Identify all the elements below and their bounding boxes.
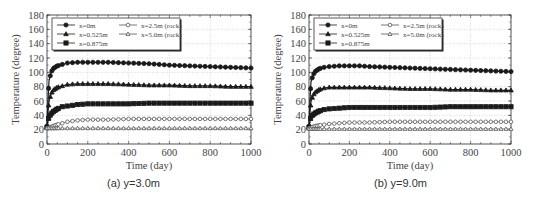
y-tick-label: 40 <box>34 110 45 121</box>
y-tick-label: 140 <box>28 38 44 49</box>
y-tick-label: 140 <box>290 38 306 49</box>
series-x-0-875m <box>307 105 513 130</box>
x-axis-label: Time (day) <box>387 160 434 172</box>
legend-label: x=0.525m <box>341 31 370 39</box>
x-tick-label: 200 <box>80 147 96 158</box>
x-axis-label: Time (day) <box>126 160 173 172</box>
legend-label: x=2.5m (rock) <box>403 22 444 30</box>
y-tick-label: 80 <box>296 81 307 92</box>
x-tick-label: 0 <box>306 147 311 158</box>
x-tick-label: 600 <box>422 147 438 158</box>
x-tick-label: 800 <box>463 147 479 158</box>
series-x-0-875m <box>45 101 253 130</box>
chart-b: 0204060801001201401601800200400600800100… <box>267 0 535 197</box>
legend: x=0mx=0.525mx=0.875mx=2.5m (rock)x=5.0m … <box>314 18 444 52</box>
y-tick-label: 180 <box>290 10 306 21</box>
legend-label: x=0.525m <box>79 31 108 39</box>
x-tick-label: 200 <box>342 147 358 158</box>
y-tick-label: 0 <box>301 139 306 150</box>
x-tick-label: 1000 <box>501 147 522 158</box>
y-tick-label: 120 <box>28 53 44 64</box>
y-tick-label: 100 <box>28 67 44 78</box>
y-tick-label: 20 <box>296 124 307 135</box>
legend-label: x=0m <box>79 22 96 30</box>
y-tick-label: 100 <box>290 67 306 78</box>
y-tick-label: 180 <box>28 10 44 21</box>
chart-panel-a: 0204060801001201401601800200400600800100… <box>0 0 267 197</box>
series-x-5-0m-rock- <box>45 126 253 129</box>
x-tick-label: 800 <box>202 147 218 158</box>
legend: x=0mx=0.525mx=0.875mx=2.5m (rock)x=5.0m … <box>52 18 182 52</box>
y-axis-label: Temperature (degree) <box>10 34 22 125</box>
y-tick-label: 80 <box>34 81 45 92</box>
y-tick-label: 60 <box>34 96 45 107</box>
chart-caption-b: (b) y=9.0m <box>267 177 534 189</box>
legend-label: x=5.0m (rock) <box>403 31 444 39</box>
legend-label: x=0.875m <box>79 40 108 48</box>
x-tick-label: 400 <box>382 147 398 158</box>
series-x-5-0m-rock- <box>307 127 513 130</box>
chart-panel-b: 0204060801001201401601800200400600800100… <box>267 0 534 197</box>
y-tick-label: 160 <box>28 24 44 35</box>
chart-a: 0204060801001201401601800200400600800100… <box>0 0 267 197</box>
y-tick-label: 160 <box>290 24 306 35</box>
chart-caption-a: (a) y=3.0m <box>0 177 267 189</box>
y-tick-label: 0 <box>39 139 44 150</box>
x-tick-label: 600 <box>162 147 178 158</box>
x-tick-label: 0 <box>44 147 49 158</box>
y-tick-label: 20 <box>34 124 45 135</box>
legend-label: x=0m <box>341 22 358 30</box>
y-tick-label: 60 <box>296 96 307 107</box>
x-tick-label: 400 <box>121 147 137 158</box>
legend-label: x=5.0m (rock) <box>141 31 182 39</box>
y-tick-label: 40 <box>296 110 307 121</box>
y-tick-label: 120 <box>290 53 306 64</box>
series-x-0m <box>307 64 513 128</box>
legend-label: x=2.5m (rock) <box>141 22 182 30</box>
legend-label: x=0.875m <box>341 40 370 48</box>
y-axis-label: Temperature (degree) <box>272 34 284 125</box>
x-tick-label: 1000 <box>241 147 262 158</box>
